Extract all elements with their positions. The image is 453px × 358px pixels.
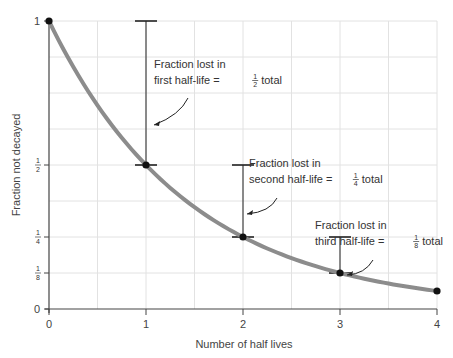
annotation-frac-denominator: 4 [354,180,358,187]
x-tick-label: 4 [434,318,440,330]
annotation-line2-post: total [422,235,443,247]
annotation-frac-denominator: 8 [414,242,418,249]
annotation-line1: Fraction lost in [249,157,321,169]
x-tick-label: 2 [240,318,246,330]
y-tick-label-fraction: 14 [35,229,41,245]
x-tick-label: 3 [337,318,343,330]
data-point [336,269,343,276]
y-axis-label: Fraction not decayed [10,114,22,217]
annotations: Fraction lost infirst half-life = 12tota… [154,58,443,276]
annotation-frac-denominator: 2 [253,81,257,88]
decay-chart: 0123401814121 Fraction lost infirst half… [0,0,453,358]
frac-denominator: 8 [36,274,40,281]
data-point [433,287,440,294]
annotation-line1: Fraction lost in [315,219,387,231]
annotation-arrow [154,98,188,125]
frac-denominator: 4 [36,238,40,245]
annotation-frac-numerator: 1 [253,73,257,80]
frac-numerator: 1 [36,229,40,236]
x-tick-label: 1 [143,318,149,330]
y-tick-label: 0 [34,303,40,315]
annotation-1: Fraction lost infirst half-life = 12tota… [154,58,282,126]
data-point [142,161,149,168]
frac-numerator: 1 [36,157,40,164]
data-point [45,17,52,24]
annotation-line2: second half-life = [249,173,332,185]
annotation-3: Fraction lost inthird half-life = 18tota… [315,219,443,276]
x-axis-label: Number of half lives [195,338,293,350]
annotation-line2: first half-life = [154,74,220,86]
arrowhead-icon [154,121,160,126]
annotation-line2: third half-life = [315,235,384,247]
annotation-line2-post: total [261,74,282,86]
frac-numerator: 1 [36,265,40,272]
annotation-2: Fraction lost insecond half-life = 14tot… [247,157,383,215]
annotation-line1: Fraction lost in [154,58,226,70]
frac-denominator: 2 [36,166,40,173]
x-tick-label: 0 [46,318,52,330]
annotation-frac-numerator: 1 [354,172,358,179]
y-tick-label-fraction: 12 [35,157,41,173]
y-tick-label-fraction: 18 [35,265,41,281]
y-tick-label: 1 [34,15,40,27]
data-point [239,233,246,240]
annotation-line2-post: total [362,173,383,185]
annotation-frac-numerator: 1 [414,234,418,241]
